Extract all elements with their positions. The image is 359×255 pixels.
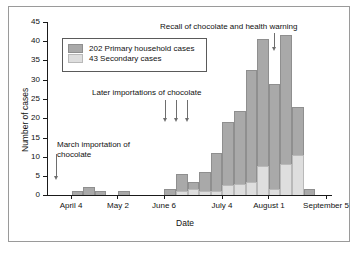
chart-legend: 202 Primary household cases 43 Secondary… (62, 38, 207, 72)
y-tick-label: 45 (24, 18, 40, 26)
y-tick (43, 99, 47, 100)
bar-segment-primary (257, 39, 269, 167)
y-tick (43, 176, 47, 177)
x-tick (117, 195, 118, 199)
bar-segment-secondary (292, 155, 304, 195)
x-tick (268, 195, 269, 199)
x-tick (71, 195, 72, 199)
bar-segment-primary (199, 172, 211, 191)
x-tick-label: July 4 (202, 202, 242, 210)
bar-segment-secondary (211, 191, 223, 195)
bar-segment-secondary (234, 184, 246, 196)
y-tick-label: 40 (24, 37, 40, 45)
bar-segment-primary (164, 189, 176, 195)
y-tick (43, 157, 47, 158)
legend-item-secondary: 43 Secondary cases (68, 54, 201, 63)
annotation-march-importation-text-line1: March importation of (57, 140, 130, 150)
x-tick (164, 195, 165, 199)
bar-segment-secondary (222, 185, 234, 195)
legend-swatch-secondary-icon (68, 54, 83, 63)
annotation-march-importation-text-line2: chocolate (57, 150, 91, 160)
bar-segment-primary (72, 191, 84, 195)
bar-segment-secondary (246, 182, 258, 195)
legend-label-secondary: 43 Secondary cases (89, 54, 162, 63)
y-tick (43, 80, 47, 81)
plot-area: 45 40 35 30 25 20 15 10 5 0 Number of ca… (0, 0, 359, 255)
bar-segment-primary (118, 191, 130, 195)
y-tick-label: 0 (24, 191, 40, 199)
bar-segment-primary (246, 70, 258, 181)
y-tick-label: 10 (24, 153, 40, 161)
annotation-later-importations-text: Later importations of chocolate (92, 88, 201, 98)
annotation-later-importations-arrow-icon (185, 100, 190, 122)
legend-swatch-primary-icon (68, 44, 83, 53)
x-tick-label: June 6 (144, 202, 184, 210)
y-axis-title: Number of cases (20, 88, 30, 152)
bar-segment-primary (304, 189, 316, 195)
y-tick-label: 5 (24, 172, 40, 180)
y-tick-label: 30 (24, 76, 40, 84)
bar-segment-primary (280, 35, 292, 164)
y-tick (43, 118, 47, 119)
annotation-march-importation-arrow-icon (54, 154, 59, 180)
chart-figure: 45 40 35 30 25 20 15 10 5 0 Number of ca… (0, 0, 359, 255)
annotation-recall-warning-text: Recall of chocolate and health warning (160, 22, 297, 32)
bar-segment-primary (234, 111, 246, 184)
x-tick-label: August 1 (245, 202, 293, 210)
x-axis-line (47, 195, 332, 196)
y-axis-line (47, 22, 48, 196)
y-tick (43, 195, 47, 196)
y-tick (43, 41, 47, 42)
x-axis-title: Date (155, 218, 215, 228)
y-tick (43, 60, 47, 61)
bar-segment-secondary (257, 166, 269, 195)
bar-segment-secondary (269, 189, 281, 195)
bar-segment-secondary (199, 191, 211, 195)
x-tick-label: May 2 (98, 202, 138, 210)
x-tick-label: September 5 (296, 202, 356, 210)
bar-segment-secondary (280, 164, 292, 195)
bar-segment-primary (176, 174, 188, 191)
bar-segment-primary (292, 107, 304, 155)
legend-label-primary: 202 Primary household cases (89, 44, 194, 53)
x-tick-label: April 4 (51, 202, 91, 210)
legend-item-primary: 202 Primary household cases (68, 44, 201, 53)
annotation-later-importations-arrow-icon (174, 100, 179, 122)
bar-segment-primary (222, 122, 234, 185)
bar-segment-secondary (188, 189, 200, 195)
bar-segment-primary (95, 191, 107, 195)
annotation-later-importations-arrow-icon (163, 100, 168, 122)
x-tick (222, 195, 223, 199)
y-tick-label: 35 (24, 56, 40, 64)
bar-segment-secondary (176, 191, 188, 195)
bar-segment-primary (211, 153, 223, 191)
bar-segment-primary (269, 84, 281, 190)
y-tick (43, 22, 47, 23)
y-tick (43, 138, 47, 139)
bar-segment-primary (188, 182, 200, 190)
bar-segment-primary (83, 187, 95, 195)
x-tick (326, 195, 327, 199)
annotation-recall-warning-arrow-icon (272, 33, 277, 51)
